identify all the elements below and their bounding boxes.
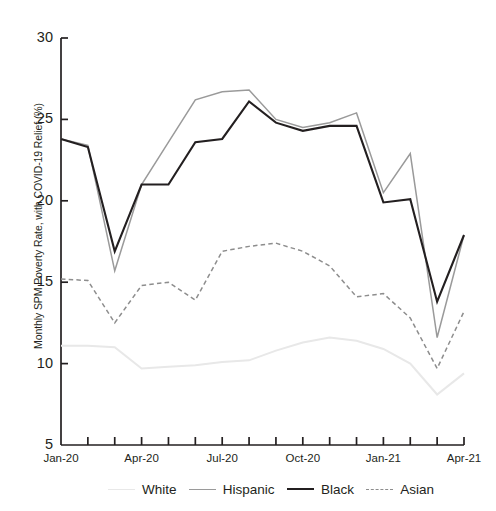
x-tick-label-jan-20: Jan-20 bbox=[31, 453, 91, 465]
legend-swatch-white-icon bbox=[108, 489, 135, 490]
legend-item-hispanic[interactable]: Hispanic bbox=[189, 482, 275, 497]
legend-swatch-asian-icon bbox=[366, 489, 393, 490]
legend-swatch-hispanic-icon bbox=[189, 489, 216, 490]
x-axis-ticks bbox=[88, 437, 464, 445]
legend-item-black[interactable]: Black bbox=[287, 482, 354, 497]
legend-label-white: White bbox=[142, 482, 177, 497]
y-tick-label-30: 30 bbox=[19, 30, 53, 45]
series-line-asian bbox=[61, 243, 464, 368]
axis-lines bbox=[61, 38, 464, 445]
series-line-white bbox=[61, 338, 464, 395]
legend-item-white[interactable]: White bbox=[108, 482, 177, 497]
legend-swatch-black-icon bbox=[287, 488, 314, 490]
legend-label-asian: Asian bbox=[400, 482, 434, 497]
y-tick-label-5: 5 bbox=[19, 437, 53, 452]
chart-legend: WhiteHispanicBlackAsian bbox=[108, 479, 434, 499]
data-series-lines bbox=[61, 90, 464, 394]
legend-label-black: Black bbox=[321, 482, 354, 497]
x-tick-label-apr-21: Apr-21 bbox=[434, 453, 494, 465]
x-tick-label-jul-20: Jul-20 bbox=[192, 453, 252, 465]
y-tick-label-20: 20 bbox=[19, 193, 53, 208]
x-tick-label-apr-20: Apr-20 bbox=[112, 453, 172, 465]
x-tick-label-jan-21: Jan-21 bbox=[353, 453, 413, 465]
series-line-black bbox=[61, 101, 464, 301]
poverty-rate-line-chart: Monthly SPM Poverty Rate, with COVID-19 … bbox=[0, 0, 496, 511]
y-axis-ticks bbox=[61, 38, 68, 364]
x-tick-label-oct-20: Oct-20 bbox=[273, 453, 333, 465]
y-tick-label-25: 25 bbox=[19, 111, 53, 126]
y-tick-label-15: 15 bbox=[19, 274, 53, 289]
series-line-hispanic bbox=[61, 90, 464, 337]
plot-area bbox=[0, 0, 496, 511]
legend-label-hispanic: Hispanic bbox=[223, 482, 275, 497]
legend-item-asian[interactable]: Asian bbox=[366, 482, 434, 497]
y-tick-label-10: 10 bbox=[19, 356, 53, 371]
